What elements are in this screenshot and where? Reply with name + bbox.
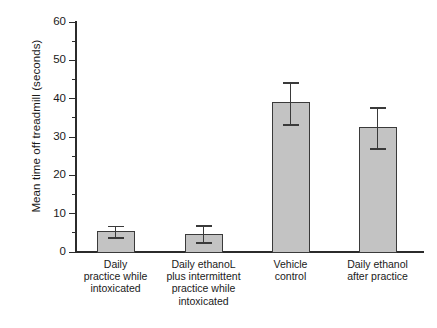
x-axis-category-label-line: plus intermittent — [156, 270, 252, 282]
y-axis-tick-label: 60 — [18, 16, 66, 28]
y-axis-tick-major — [69, 60, 76, 61]
error-bar-cap-upper — [196, 225, 212, 227]
error-bar-stem — [290, 82, 292, 124]
error-bar-stem — [377, 107, 379, 148]
x-axis-category-label: Daily ethanoLplus intermittentpractice w… — [156, 258, 252, 307]
y-axis-tick-major — [69, 137, 76, 138]
y-axis-tick-label: 30 — [18, 131, 66, 143]
error-bar-cap-upper — [370, 107, 386, 109]
error-bar-cap-upper — [283, 82, 299, 84]
y-axis-tick-label: 50 — [18, 54, 66, 66]
bar-chart-figure: Mean time off treadmill (seconds) 010203… — [0, 0, 437, 328]
y-axis-tick-minor — [72, 41, 76, 42]
y-axis-tick-minor — [72, 194, 76, 195]
x-axis-category-label-line: Daily ethanol — [330, 258, 426, 270]
x-axis-category-label-line: practice while — [68, 270, 164, 282]
error-bar-stem — [203, 225, 205, 242]
error-bar-stem — [115, 226, 117, 238]
x-axis-category-label-line: Daily ethanoL — [156, 258, 252, 270]
y-axis-tick-labels: 0102030405060 — [14, 0, 66, 328]
y-axis-tick-minor — [72, 156, 76, 157]
error-bar-cap-lower — [108, 237, 124, 239]
x-axis-category-label-line: intoxicated — [68, 282, 164, 294]
x-axis-category-label-line: intoxicated — [156, 295, 252, 307]
x-axis-category-label-line: practice while — [156, 282, 252, 294]
y-axis-tick-major — [69, 98, 76, 99]
x-axis-category-label: Dailypractice whileintoxicated — [68, 258, 164, 295]
error-bar-cap-upper — [108, 226, 124, 228]
y-axis-tick-major — [69, 213, 76, 214]
x-axis-category-label-line: Daily — [68, 258, 164, 270]
x-axis-category-label-line: after practice — [330, 270, 426, 282]
y-axis-tick-major — [69, 252, 76, 253]
y-axis-tick-major — [69, 22, 76, 23]
x-axis-category-label-line: Vehicle — [243, 258, 339, 270]
x-axis-category-label: Vehiclecontrol — [243, 258, 339, 282]
y-axis-tick-label: 20 — [18, 169, 66, 181]
error-bar-cap-lower — [196, 242, 212, 244]
y-axis-tick-major — [69, 175, 76, 176]
y-axis-tick-label: 0 — [18, 246, 66, 258]
error-bar-cap-lower — [370, 148, 386, 150]
x-axis-category-label: Daily ethanolafter practice — [330, 258, 426, 282]
y-axis-tick-label: 10 — [18, 208, 66, 220]
error-bar-cap-lower — [283, 124, 299, 126]
y-axis-tick-minor — [72, 232, 76, 233]
y-axis-tick-minor — [72, 79, 76, 80]
y-axis-tick-label: 40 — [18, 93, 66, 105]
x-axis-category-label-line: control — [243, 270, 339, 282]
y-axis-tick-minor — [72, 117, 76, 118]
